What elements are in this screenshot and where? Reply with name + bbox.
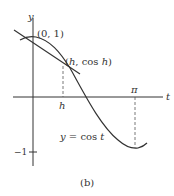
- t-axis-label: t: [166, 91, 171, 102]
- curve-label: y = cos t: [59, 131, 105, 142]
- pi-tick-label: π: [130, 84, 138, 95]
- point-h-cosh-label: (h, cos h): [65, 56, 112, 67]
- h-tick-label: h: [59, 100, 65, 111]
- y-axis-label: y: [27, 11, 34, 22]
- point-0-1-label: (0, 1): [37, 28, 64, 39]
- cosine-secant-diagram: y t (0, 1) (h, cos h) h π −1 y = cos t (…: [0, 0, 174, 196]
- figure-caption: (b): [80, 177, 94, 188]
- neg1-tick-label: −1: [14, 147, 27, 157]
